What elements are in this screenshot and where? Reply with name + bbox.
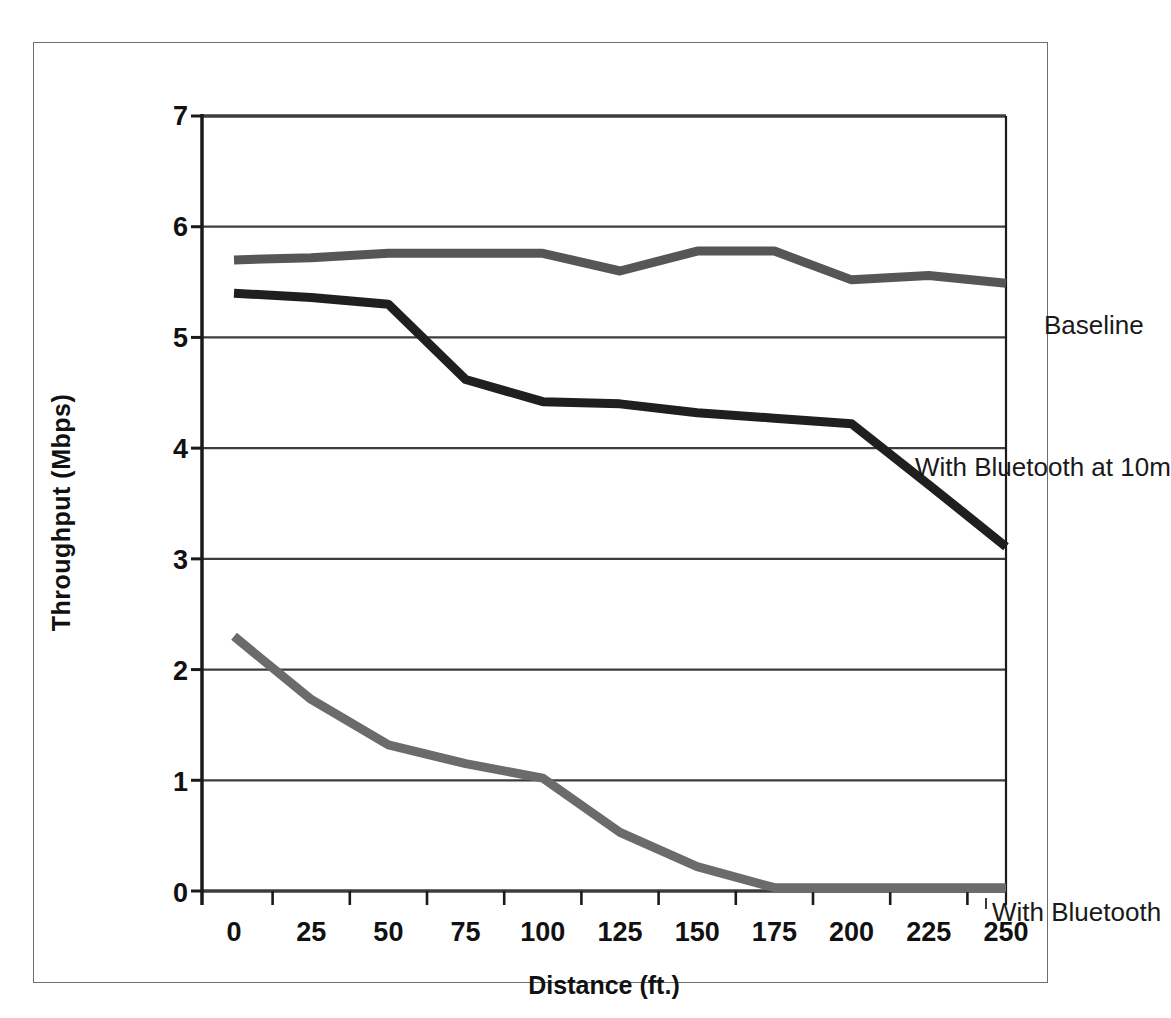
x-tick-label-100: 100 xyxy=(508,919,578,946)
x-tick-label-225: 225 xyxy=(894,919,964,946)
x-axis-ticks xyxy=(273,891,968,905)
series-label-bluetooth-10m: With Bluetooth at 10m xyxy=(915,454,1171,480)
x-tick-label-0: 0 xyxy=(199,919,269,946)
chart-canvas xyxy=(202,116,1006,891)
x-tick-label-75: 75 xyxy=(431,919,501,946)
x-tick-label-50: 50 xyxy=(353,919,423,946)
y-tick-label-1: 1 xyxy=(154,769,188,796)
series-lines xyxy=(234,251,1006,888)
y-tick-label-6: 6 xyxy=(154,214,188,241)
y-axis-tick-labels: 7 6 5 4 3 2 1 0 xyxy=(152,116,188,891)
series-label-bluetooth-marker xyxy=(985,898,987,909)
y-tick-label-7: 7 xyxy=(154,103,188,130)
y-tick-label-5: 5 xyxy=(154,325,188,352)
x-tick-label-125: 125 xyxy=(585,919,655,946)
y-tick-label-0: 0 xyxy=(154,880,188,907)
gridlines xyxy=(202,116,1006,891)
series-line-1 xyxy=(234,293,1006,547)
plot-area: Baseline With Bluetooth at 10m With Blue… xyxy=(202,116,1006,891)
series-label-baseline: Baseline xyxy=(1044,312,1144,338)
y-tick-label-2: 2 xyxy=(154,658,188,685)
axis-lines xyxy=(202,114,1006,905)
y-tick-label-3: 3 xyxy=(154,547,188,574)
y-axis-title: Throughput (Mbps) xyxy=(47,233,76,793)
y-tick-label-4: 4 xyxy=(154,436,188,463)
x-axis-tick-labels: 0255075100125150175200225250 xyxy=(202,919,1006,959)
series-line-2 xyxy=(234,636,1006,887)
x-tick-label-200: 200 xyxy=(817,919,887,946)
series-line-0 xyxy=(234,251,1006,283)
x-tick-label-25: 25 xyxy=(276,919,346,946)
x-tick-label-250: 250 xyxy=(971,919,1041,946)
figure-frame: 7 6 5 4 3 2 1 0 Throughput (Mbps) Baseli… xyxy=(33,42,1048,983)
x-axis-title: Distance (ft.) xyxy=(202,971,1006,1000)
x-tick-label-150: 150 xyxy=(662,919,732,946)
x-tick-label-175: 175 xyxy=(739,919,809,946)
